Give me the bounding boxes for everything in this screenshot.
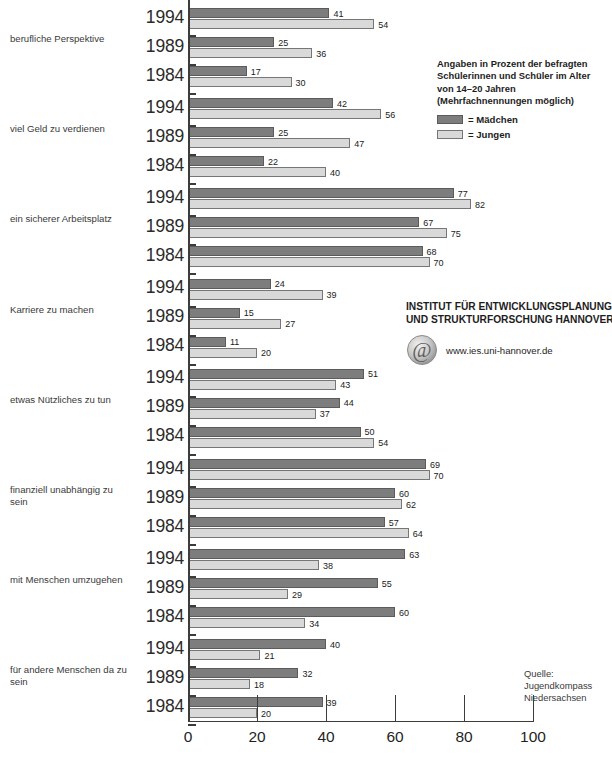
bar-girls bbox=[188, 8, 329, 18]
bar-girls bbox=[188, 549, 405, 559]
category-label: viel Geld zu verdienen bbox=[10, 123, 150, 135]
bar-value-label: 38 bbox=[323, 561, 333, 571]
bar-value-label: 29 bbox=[292, 590, 302, 600]
year-label: 1989 bbox=[140, 38, 184, 56]
bar-girls bbox=[188, 217, 419, 227]
bar-value-label: 32 bbox=[302, 669, 312, 679]
legend-swatch-boys bbox=[437, 130, 463, 139]
plot-area: 4154253617304256254722407782677568702439… bbox=[188, 0, 533, 735]
bar-boys bbox=[188, 409, 316, 419]
bar-value-label: 39 bbox=[327, 290, 337, 300]
row-tick-stub bbox=[188, 724, 196, 726]
bar-boys bbox=[188, 19, 374, 29]
bar-girls bbox=[188, 188, 454, 198]
category-label: etwas Nützliches zu tun bbox=[10, 394, 150, 406]
legend: = Mädchen= Jungen bbox=[437, 113, 518, 143]
bar-girls bbox=[188, 37, 274, 47]
category-label: mit Menschen umzugehen bbox=[10, 574, 150, 586]
bar-value-label: 40 bbox=[330, 168, 340, 178]
year-label: 1984 bbox=[140, 518, 184, 536]
legend-label: = Jungen bbox=[468, 129, 510, 140]
bar-value-label: 64 bbox=[413, 529, 423, 539]
category-label: für andere Menschen da zusein bbox=[10, 664, 150, 687]
bar-girls bbox=[188, 66, 247, 76]
bar-value-label: 68 bbox=[427, 247, 437, 257]
bar-value-label: 37 bbox=[320, 409, 330, 419]
category-label: berufliche Perspektive bbox=[10, 33, 150, 45]
bar-girls bbox=[188, 427, 361, 437]
category-label-line: berufliche Perspektive bbox=[10, 33, 150, 45]
source-block: Quelle: Jugendkompass Niedersachsen bbox=[524, 668, 610, 705]
y-axis-line bbox=[188, 0, 190, 722]
bar-girls bbox=[188, 98, 333, 108]
bar-boys bbox=[188, 109, 381, 119]
bar-girls bbox=[188, 697, 323, 707]
bar-girls bbox=[188, 459, 426, 469]
bar-value-label: 62 bbox=[406, 500, 416, 510]
category-label: finanziell unabhängig zusein bbox=[10, 484, 150, 507]
bar-value-label: 36 bbox=[316, 49, 326, 59]
chart-container: berufliche Perspektiveviel Geld zu verdi… bbox=[0, 0, 612, 777]
bar-boys bbox=[188, 499, 402, 509]
year-label: 1989 bbox=[140, 579, 184, 597]
year-label: 1989 bbox=[140, 308, 184, 326]
year-label: 1984 bbox=[140, 427, 184, 445]
bar-value-label: 82 bbox=[475, 200, 485, 210]
bar-value-label: 27 bbox=[285, 319, 295, 329]
bar-value-label: 20 bbox=[261, 348, 271, 358]
category-label-line: finanziell unabhängig zu bbox=[10, 484, 150, 496]
bar-value-label: 69 bbox=[430, 460, 440, 470]
bar-boys bbox=[188, 290, 323, 300]
year-label: 1989 bbox=[140, 398, 184, 416]
year-label: 1984 bbox=[140, 247, 184, 265]
note-line-3: von 14–20 Jahren bbox=[437, 83, 609, 95]
year-label: 1984 bbox=[140, 67, 184, 85]
bar-value-label: 55 bbox=[382, 579, 392, 589]
note-line-2: Schülerinnen und Schüler im Alter bbox=[437, 70, 609, 82]
year-label: 1994 bbox=[140, 640, 184, 658]
bar-value-label: 60 bbox=[399, 608, 409, 618]
x-axis-tick bbox=[326, 695, 327, 722]
institute-url[interactable]: www.ies.uni-hannover.de bbox=[446, 345, 553, 356]
category-label-line: Karriere zu machen bbox=[10, 304, 150, 316]
bar-value-label: 67 bbox=[423, 218, 433, 228]
note-line-4: (Mehrfachnennungen möglich) bbox=[437, 95, 609, 107]
bar-girls bbox=[188, 398, 340, 408]
bar-value-label: 42 bbox=[337, 99, 347, 109]
bar-value-label: 11 bbox=[230, 337, 239, 347]
bar-boys bbox=[188, 679, 250, 689]
bar-girls bbox=[188, 156, 264, 166]
bar-boys bbox=[188, 589, 288, 599]
year-label: 1989 bbox=[140, 218, 184, 236]
bar-value-label: 56 bbox=[385, 110, 395, 120]
legend-label: = Mädchen bbox=[468, 114, 518, 125]
bar-value-label: 21 bbox=[264, 651, 274, 661]
bar-value-label: 77 bbox=[458, 189, 468, 199]
bar-boys bbox=[188, 167, 326, 177]
year-label: 1989 bbox=[140, 128, 184, 146]
category-label-line: für andere Menschen da zu bbox=[10, 664, 150, 676]
year-label: 1994 bbox=[140, 550, 184, 568]
bar-boys bbox=[188, 77, 292, 87]
note-block: Angaben in Prozent der befragtenSchüleri… bbox=[437, 58, 609, 108]
bar-value-label: 15 bbox=[244, 308, 254, 318]
bar-value-label: 63 bbox=[409, 550, 419, 560]
bar-boys bbox=[188, 560, 319, 570]
x-axis-tick-label: 60 bbox=[386, 729, 403, 745]
category-label-line: mit Menschen umzugehen bbox=[10, 574, 150, 586]
x-axis-tick-label: 0 bbox=[184, 729, 193, 745]
x-axis-tick-label: 40 bbox=[317, 729, 334, 745]
bar-girls bbox=[188, 517, 385, 527]
bar-value-label: 60 bbox=[399, 489, 409, 499]
category-label-line: viel Geld zu verdienen bbox=[10, 123, 150, 135]
year-label: 1989 bbox=[140, 489, 184, 507]
bar-girls bbox=[188, 369, 364, 379]
bar-value-label: 75 bbox=[451, 229, 461, 239]
bar-girls bbox=[188, 279, 271, 289]
year-label: 1994 bbox=[140, 460, 184, 478]
bar-girls bbox=[188, 578, 378, 588]
year-label: 1994 bbox=[140, 279, 184, 297]
bar-value-label: 39 bbox=[327, 698, 337, 708]
year-label: 1994 bbox=[140, 99, 184, 117]
category-label: Karriere zu machen bbox=[10, 304, 150, 316]
